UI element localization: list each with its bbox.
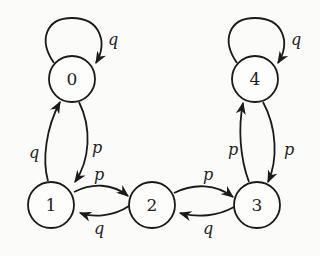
edge-label-4-3: p — [284, 140, 294, 159]
state-label-4: 4 — [250, 69, 261, 89]
edge-label-2-3: p — [203, 165, 213, 184]
edge-2-to-3: p — [174, 165, 233, 197]
edge-label-4-4: q — [291, 30, 301, 49]
edge-2-to-1: q — [80, 206, 129, 238]
state-label-3: 3 — [252, 195, 263, 215]
edge-label-3-4: p — [228, 140, 238, 159]
state-label-0: 0 — [67, 69, 78, 89]
state-label-2: 2 — [147, 195, 158, 215]
edge-1-to-0: q — [29, 102, 60, 181]
edge-0-to-0: q — [46, 18, 118, 63]
edge-label-3-2: q — [203, 219, 213, 238]
edge-label-0-1: p — [92, 138, 102, 157]
state-diagram: q q q p p q p q p p — [0, 0, 320, 256]
edge-label-2-1: q — [94, 219, 104, 238]
edge-label-1-0: q — [29, 143, 39, 162]
state-node-4: 4 — [232, 56, 278, 102]
edge-3-to-4: p — [228, 103, 249, 182]
state-node-3: 3 — [234, 182, 280, 228]
edge-4-to-3: p — [263, 102, 294, 182]
edge-label-1-2: p — [94, 165, 104, 184]
state-label-1: 1 — [46, 195, 57, 215]
state-node-0: 0 — [49, 56, 95, 102]
state-node-2: 2 — [129, 182, 175, 228]
state-node-1: 1 — [28, 182, 74, 228]
edge-3-to-2: q — [180, 207, 234, 238]
edge-label-0-0: q — [108, 30, 118, 49]
edge-4-to-4: q — [229, 18, 301, 63]
